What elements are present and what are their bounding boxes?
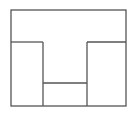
outer-boundary <box>11 10 126 106</box>
floor-plan-diagram <box>0 0 138 116</box>
interior-walls <box>11 42 126 106</box>
